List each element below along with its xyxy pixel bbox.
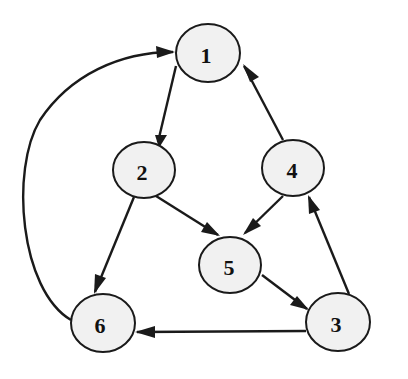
edge-1-to-2 (155, 66, 176, 148)
edge-3-to-4 (308, 195, 349, 294)
node-2[interactable]: 2 (113, 142, 175, 198)
edge-3-to-6 (135, 326, 306, 338)
edge-4-to-5 (243, 196, 283, 235)
edge-5-to-3 (262, 275, 309, 310)
arrowhead-icon (308, 195, 320, 214)
arrowhead-icon (94, 274, 106, 294)
edge-4-to-1 (243, 64, 283, 140)
node-6[interactable]: 6 (71, 294, 135, 352)
arrowhead-icon (243, 64, 259, 82)
nodes-layer: 1 2 3 4 5 6 (71, 24, 370, 352)
arrowhead-icon (201, 222, 220, 236)
node-4-label: 4 (287, 158, 298, 183)
arrowhead-icon (156, 46, 175, 58)
node-1[interactable]: 1 (176, 24, 240, 82)
edge-2-to-5 (156, 196, 220, 236)
node-3[interactable]: 3 (306, 293, 370, 351)
directed-graph: 1 2 3 4 5 6 (0, 0, 408, 379)
node-6-label: 6 (95, 313, 106, 338)
arrowhead-icon (135, 326, 155, 338)
node-1-label: 1 (201, 43, 212, 68)
node-3-label: 3 (331, 312, 342, 337)
node-5-label: 5 (224, 255, 235, 280)
edge-2-to-6 (94, 197, 134, 294)
node-5[interactable]: 5 (199, 237, 261, 293)
node-4[interactable]: 4 (262, 140, 324, 196)
node-2-label: 2 (137, 160, 148, 185)
